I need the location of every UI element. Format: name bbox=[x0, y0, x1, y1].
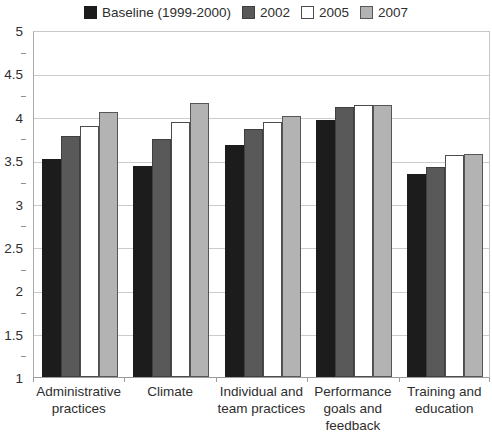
bar-2005 bbox=[171, 122, 190, 377]
y-axis-minor-tick bbox=[21, 139, 26, 140]
bar-baseline-1999-2000- bbox=[42, 159, 61, 377]
y-axis-minor-tick bbox=[21, 226, 26, 227]
bar-2002 bbox=[152, 139, 171, 377]
bar-2005 bbox=[80, 126, 99, 377]
bar-baseline-1999-2000- bbox=[133, 166, 152, 377]
legend-swatch-icon bbox=[360, 6, 373, 19]
y-axis-tick-label: 5 bbox=[15, 24, 23, 39]
legend-label: 2007 bbox=[378, 5, 408, 20]
y-axis-minor-tick bbox=[21, 270, 26, 271]
legend-swatch-icon bbox=[301, 6, 314, 19]
legend-label: 2005 bbox=[319, 5, 349, 20]
y-axis-tick-label: 4 bbox=[15, 110, 23, 125]
x-axis-tick bbox=[399, 378, 400, 382]
category-label: Individual and team practices bbox=[216, 384, 307, 435]
category-label: Administrative practices bbox=[33, 384, 124, 435]
bar-2002 bbox=[335, 107, 354, 377]
y-axis-minor-tick bbox=[21, 183, 26, 184]
bar-2005 bbox=[354, 105, 373, 377]
chart-legend: Baseline (1999-2000)200220052007 bbox=[0, 3, 492, 21]
bar-baseline-1999-2000- bbox=[407, 174, 426, 377]
bar-chart-figure: Baseline (1999-2000)200220052007 11.522.… bbox=[0, 0, 492, 435]
bar-baseline-1999-2000- bbox=[316, 120, 335, 377]
x-axis-tick bbox=[216, 378, 217, 382]
legend-item-1: Baseline (1999-2000) bbox=[84, 5, 231, 20]
category-label: Training and education bbox=[399, 384, 490, 435]
x-axis-tick bbox=[307, 378, 308, 382]
bar-2005 bbox=[263, 122, 282, 377]
bar-2007 bbox=[464, 154, 483, 377]
y-axis-minor-tick bbox=[21, 313, 26, 314]
x-axis-tick bbox=[489, 378, 490, 382]
y-axis-tick-label: 2 bbox=[15, 284, 23, 299]
bar-2002 bbox=[244, 129, 263, 377]
legend-item-4: 2007 bbox=[360, 5, 408, 20]
bar-2002 bbox=[61, 136, 80, 377]
y-axis-tick-label: 3.5 bbox=[4, 154, 23, 169]
legend-item-3: 2005 bbox=[301, 5, 349, 20]
y-axis-minor-tick bbox=[21, 356, 26, 357]
y-axis-tick-label: 1.5 bbox=[4, 327, 23, 342]
bar-2007 bbox=[99, 112, 118, 377]
bar-2002 bbox=[426, 167, 445, 377]
y-axis-minor-tick bbox=[21, 53, 26, 54]
y-axis-tick-label: 2.5 bbox=[4, 240, 23, 255]
legend-label: 2002 bbox=[260, 5, 290, 20]
bar-2007 bbox=[282, 116, 301, 377]
gridline bbox=[34, 75, 489, 76]
bar-2007 bbox=[373, 105, 392, 377]
y-axis: 11.522.533.544.55 bbox=[0, 31, 27, 378]
x-axis-tick bbox=[33, 378, 34, 382]
y-axis-tick-label: 3 bbox=[15, 197, 23, 212]
legend-swatch-icon bbox=[84, 6, 97, 19]
y-axis-minor-tick bbox=[21, 96, 26, 97]
bar-2005 bbox=[445, 155, 464, 377]
category-label: Performance goals and feedback bbox=[307, 384, 398, 435]
bar-2007 bbox=[190, 103, 209, 377]
plot-area bbox=[33, 31, 490, 378]
legend-item-2: 2002 bbox=[242, 5, 290, 20]
x-axis-labels: Administrative practicesClimateIndividua… bbox=[33, 384, 490, 435]
bar-baseline-1999-2000- bbox=[225, 145, 244, 377]
category-label: Climate bbox=[124, 384, 215, 435]
x-axis-tick bbox=[124, 378, 125, 382]
legend-label: Baseline (1999-2000) bbox=[102, 5, 231, 20]
y-axis-tick-label: 1 bbox=[15, 371, 23, 386]
y-axis-tick-label: 4.5 bbox=[4, 67, 23, 82]
legend-swatch-icon bbox=[242, 6, 255, 19]
